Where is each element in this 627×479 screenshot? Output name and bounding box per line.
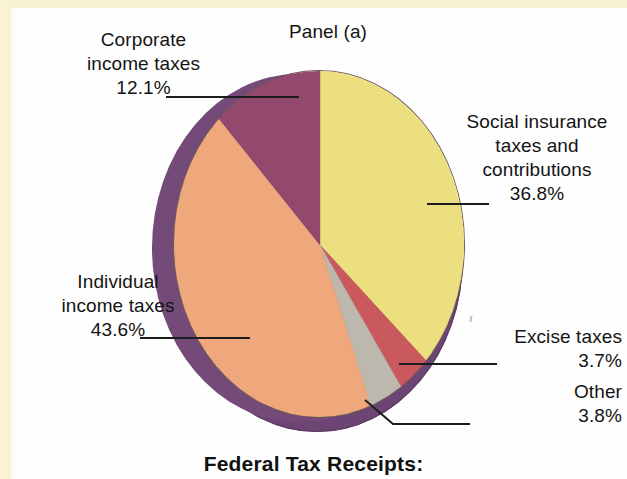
pie-top-face: [173, 70, 465, 418]
label-individual-line1: Individual: [77, 271, 158, 292]
label-individual-percent: 43.6%: [8, 318, 228, 342]
figure-caption: Federal Tax Receipts:: [0, 452, 627, 476]
pie-chart-figure: Panel (a) Corporate income taxes 12.1% I…: [0, 0, 627, 479]
label-excise-percent: 3.7%: [470, 349, 622, 373]
label-other-line1: Other: [574, 381, 622, 402]
scan-bleed-left: [0, 0, 11, 479]
label-other-percent: 3.8%: [470, 404, 622, 428]
label-other: Other 3.8%: [470, 380, 622, 428]
label-corporate-income-taxes: Corporate income taxes 12.1%: [36, 28, 251, 100]
label-social-line3: contributions: [482, 159, 591, 180]
label-corporate-line2: income taxes: [87, 53, 200, 74]
label-excise-line1: Excise taxes: [514, 326, 622, 347]
label-corporate-percent: 12.1%: [36, 76, 251, 100]
scan-bleed-top: [0, 0, 627, 8]
label-excise-taxes: Excise taxes 3.7%: [470, 325, 622, 373]
label-social-line2: taxes and: [495, 135, 578, 156]
panel-title: Panel (a): [248, 20, 408, 44]
label-individual-income-taxes: Individual income taxes 43.6%: [8, 270, 228, 342]
label-individual-line2: income taxes: [61, 295, 174, 316]
label-social-insurance: Social insurance taxes and contributions…: [447, 110, 627, 206]
pie-chart: [150, 62, 474, 434]
label-corporate-line1: Corporate: [101, 29, 186, 50]
label-social-line1: Social insurance: [466, 111, 607, 132]
pie-slices-svg: [174, 71, 465, 418]
label-social-percent: 36.8%: [447, 182, 627, 206]
